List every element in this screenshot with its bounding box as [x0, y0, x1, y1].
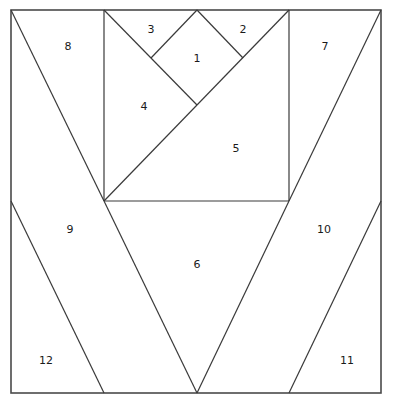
piece-label-10: 10: [317, 223, 331, 236]
piece-label-12: 12: [39, 354, 53, 367]
piece-label-8: 8: [65, 40, 72, 53]
v-right-line: [197, 201, 289, 393]
piece-label-4: 4: [141, 100, 148, 113]
piece-edges: [11, 10, 381, 393]
outer-left-bottom-line: [11, 201, 104, 393]
apex-left-line: [151, 10, 197, 58]
v-left-line: [104, 201, 197, 393]
piece-label-7: 7: [322, 40, 329, 53]
piece-label-9: 9: [67, 223, 74, 236]
piece-label-11: 11: [340, 354, 354, 367]
outer-left-top-line: [11, 10, 104, 201]
piece-label-2: 2: [240, 23, 247, 36]
outer-right-top-line: [289, 10, 381, 201]
piece-label-6: 6: [194, 258, 201, 271]
piece-label-5: 5: [233, 142, 240, 155]
outer-right-bottom-line: [289, 201, 381, 393]
apex-right-line: [197, 10, 243, 58]
piece-label-1: 1: [194, 52, 201, 65]
piece-label-3: 3: [148, 23, 155, 36]
